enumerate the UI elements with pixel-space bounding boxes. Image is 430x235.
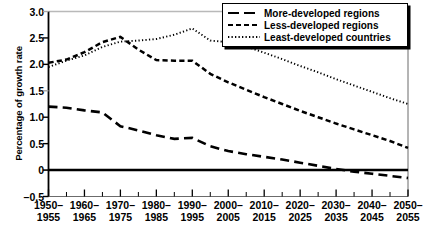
x-tick-label: 1950–1955 xyxy=(34,200,63,223)
series-line-1 xyxy=(49,37,409,148)
x-tick-label-line2: 1985 xyxy=(142,212,171,224)
chart-legend: More-developed regions Less-developed re… xyxy=(222,3,408,47)
x-tick-label-line1: 2040– xyxy=(357,200,386,212)
x-tick-label-line1: 1950– xyxy=(34,200,63,212)
dot-key-icon xyxy=(227,32,261,42)
x-tick-label-line2: 2025 xyxy=(286,212,315,224)
x-tick-label-line1: 1980– xyxy=(142,200,171,212)
x-tick-label-line2: 2015 xyxy=(250,212,279,224)
x-tick-label-line2: 1995 xyxy=(178,212,207,224)
x-tick-label-line2: 2045 xyxy=(357,212,386,224)
x-tick-label-line2: 1955 xyxy=(34,212,63,224)
dash-key-icon xyxy=(227,20,261,30)
x-tick-label-line1: 2010– xyxy=(250,200,279,212)
growth-rate-line-chart: Percentage of growth rate 3.02.52.01.51.… xyxy=(0,0,430,235)
long-dash-key-icon xyxy=(227,8,261,18)
x-tick-label: 2050–2055 xyxy=(393,200,422,223)
x-tick-label-line1: 2030– xyxy=(321,200,350,212)
x-tick-label-line1: 2000– xyxy=(214,200,243,212)
x-tick-label-line1: 1990– xyxy=(178,200,207,212)
x-tick-label-line2: 2055 xyxy=(393,212,422,224)
x-tick-label: 1980–1985 xyxy=(142,200,171,223)
x-tick-label-line2: 1965 xyxy=(70,212,99,224)
x-tick-label-line2: 2035 xyxy=(321,212,350,224)
x-tick-label: 1970–1975 xyxy=(106,200,135,223)
x-tick-label-line2: 2005 xyxy=(214,212,243,224)
legend-label: Least-developed countries xyxy=(261,32,391,43)
x-tick-label: 2010–2015 xyxy=(250,200,279,223)
x-tick-label: 2000–2005 xyxy=(214,200,243,223)
legend-label: Less-developed regions xyxy=(261,20,378,31)
legend-item-less-developed: Less-developed regions xyxy=(227,19,403,31)
legend-item-more-developed: More-developed regions xyxy=(227,7,403,19)
x-tick-label-line2: 1975 xyxy=(106,212,135,224)
legend-item-least-developed: Least-developed countries xyxy=(227,31,403,43)
x-tick-label: 2040–2045 xyxy=(357,200,386,223)
x-tick-label-line1: 1960– xyxy=(70,200,99,212)
x-tick-label: 1990–1995 xyxy=(178,200,207,223)
x-tick-label: 2030–2035 xyxy=(321,200,350,223)
x-tick-label: 1960–1965 xyxy=(70,200,99,223)
x-tick-label-line1: 2050– xyxy=(393,200,422,212)
x-tick-label-line1: 1970– xyxy=(106,200,135,212)
x-tick-label-line1: 2020– xyxy=(286,200,315,212)
legend-label: More-developed regions xyxy=(261,8,380,19)
series-line-0 xyxy=(49,107,409,178)
x-tick-label: 2020–2025 xyxy=(286,200,315,223)
